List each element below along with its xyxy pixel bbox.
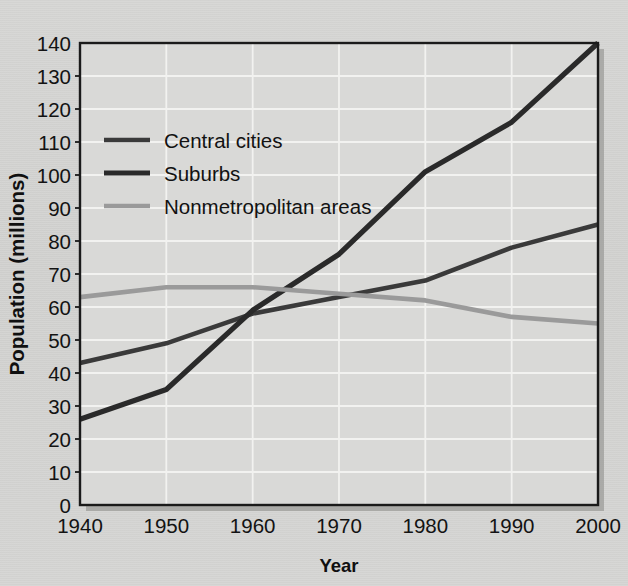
y-axis-tick-labels: 0102030405060708090100110120130140 bbox=[37, 32, 71, 517]
y-axis-tick-label: 120 bbox=[37, 98, 71, 121]
y-axis-tick-label: 140 bbox=[37, 32, 71, 55]
y-axis-tick-label: 30 bbox=[48, 395, 71, 418]
x-axis-tick-labels: 1940195019601970198019902000 bbox=[57, 514, 621, 537]
y-axis-tick-label: 50 bbox=[48, 329, 71, 352]
y-axis-tick-label: 90 bbox=[48, 197, 71, 220]
x-axis-tick-label: 2000 bbox=[575, 514, 621, 537]
x-axis-tick-label: 1940 bbox=[57, 514, 103, 537]
x-axis-tick-label: 1980 bbox=[403, 514, 449, 537]
y-axis-tick-label: 60 bbox=[48, 296, 71, 319]
y-axis-tick-label: 100 bbox=[37, 164, 71, 187]
y-axis-tick-label: 70 bbox=[48, 263, 71, 286]
x-axis-tick-label: 1950 bbox=[144, 514, 190, 537]
legend-label-nonmetropolitan-areas: Nonmetropolitan areas bbox=[164, 195, 371, 218]
x-axis-tick-label: 1990 bbox=[489, 514, 535, 537]
legend-label-suburbs: Suburbs bbox=[164, 162, 240, 185]
x-axis-tick-label: 1960 bbox=[230, 514, 276, 537]
y-axis-tick-label: 20 bbox=[48, 428, 71, 451]
y-axis-tick-label: 40 bbox=[48, 362, 71, 385]
y-axis-tick-label: 80 bbox=[48, 230, 71, 253]
y-axis-tick-label: 130 bbox=[37, 65, 71, 88]
population-line-chart: 0102030405060708090100110120130140 19401… bbox=[0, 0, 628, 586]
legend-label-central-cities: Central cities bbox=[164, 129, 283, 152]
y-axis-tick-label: 10 bbox=[48, 461, 71, 484]
y-axis-tick-label: 110 bbox=[38, 131, 71, 154]
x-axis-tick-label: 1970 bbox=[316, 514, 362, 537]
y-axis-title: Population (millions) bbox=[5, 173, 28, 376]
x-axis-title: Year bbox=[319, 555, 358, 576]
